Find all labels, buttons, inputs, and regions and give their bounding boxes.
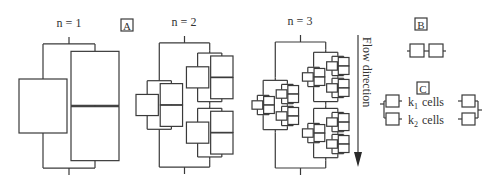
cell: [211, 111, 233, 132]
cell: [327, 140, 338, 148]
cell: [314, 125, 325, 133]
cell: [211, 56, 233, 77]
cell: [252, 101, 263, 109]
structure-n2: [136, 36, 233, 174]
panel-label-c: C: [417, 82, 429, 95]
cell: [338, 114, 349, 122]
cell: [19, 79, 67, 133]
fractal-diagram: n = 1 n = 2 n = 3 A Flow direction B C: [0, 0, 498, 180]
cell: [211, 78, 233, 99]
cell: [338, 57, 349, 65]
svg-text:A: A: [123, 20, 131, 32]
k2-cells-label: k2cells: [408, 113, 444, 129]
level-label-n1: n = 1: [57, 16, 82, 30]
cell: [160, 84, 182, 105]
k1-cells-label: k1cells: [408, 95, 444, 111]
cell: [276, 90, 287, 98]
cell: [302, 73, 313, 81]
cell: [327, 118, 338, 126]
panel-label-a: A: [121, 19, 133, 32]
cell: [276, 112, 287, 120]
cell: [338, 88, 349, 96]
parallel-cells-right-icon: [458, 95, 482, 125]
cell: [302, 129, 313, 137]
flow-direction-label: Flow direction: [360, 37, 374, 107]
level-label-n3: n = 3: [288, 14, 313, 28]
svg-text:C: C: [419, 83, 426, 95]
cell: [71, 107, 119, 161]
cell: [186, 122, 208, 143]
cell: [136, 94, 158, 115]
panel-label-b: B: [415, 18, 427, 31]
cell: [288, 94, 299, 102]
cell: [314, 77, 325, 85]
cell: [327, 84, 338, 92]
cell: [288, 107, 299, 115]
cell: [186, 67, 208, 88]
cell: [338, 144, 349, 152]
cell: [264, 97, 275, 105]
svg-text:B: B: [417, 19, 424, 31]
structure-n3: [252, 35, 349, 175]
series-cells-icon: [407, 44, 446, 57]
parallel-cells-left-icon: [380, 95, 402, 125]
cell: [338, 122, 349, 130]
cell: [288, 116, 299, 124]
structure-n1: [19, 37, 119, 175]
level-label-n2: n = 2: [172, 15, 197, 29]
cell: [314, 68, 325, 76]
cell: [314, 133, 325, 141]
cell: [160, 105, 182, 126]
cell: [264, 105, 275, 113]
cell: [338, 79, 349, 87]
cell: [338, 66, 349, 74]
cell: [327, 62, 338, 70]
cell: [338, 136, 349, 144]
cell: [71, 51, 119, 105]
cell: [288, 86, 299, 94]
cell: [211, 133, 233, 154]
